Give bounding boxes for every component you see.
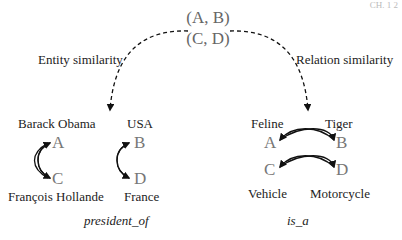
- entity-arrow-bd: [117, 143, 129, 178]
- relation-bottom-right: Motorcycle: [310, 186, 370, 202]
- entity-bottom-left: François Hollande: [8, 189, 104, 205]
- entity-bottom-right: France: [124, 189, 159, 205]
- entity-similarity-label: Entity similarity: [38, 52, 123, 68]
- entity-letter-b: B: [134, 133, 145, 153]
- entity-letter-d: D: [134, 169, 146, 189]
- entity-arrow-ac: [35, 143, 49, 178]
- entity-top-right: USA: [127, 116, 153, 132]
- corner-label: CH. 1 2: [370, 0, 398, 10]
- entity-relation-label: president_of: [84, 213, 149, 229]
- relation-similarity-label: Relation similarity: [296, 52, 393, 68]
- relation-letter-b: B: [336, 133, 347, 153]
- entity-letter-c: C: [52, 169, 63, 189]
- relation-letter-c: C: [264, 160, 275, 180]
- entity-letter-a: A: [52, 133, 64, 153]
- relation-top-left: Feline: [251, 116, 284, 132]
- relation-bottom-left: Vehicle: [248, 186, 287, 202]
- entity-top-left: Barack Obama: [18, 116, 96, 132]
- relation-letter-a: A: [264, 133, 276, 153]
- center-pair-ab: (A, B): [168, 8, 248, 28]
- relation-top-right: Tiger: [325, 116, 353, 132]
- relation-letter-d: D: [336, 160, 348, 180]
- center-pair-cd: (C, D): [168, 29, 248, 49]
- relation-relation-label: is_a: [287, 213, 309, 229]
